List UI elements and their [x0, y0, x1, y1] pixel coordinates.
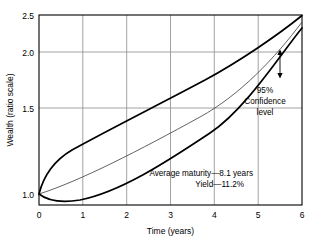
x-tick-label: 6: [300, 210, 305, 220]
wealth-confidence-chart: 2.5 2.0 1.5 1.0 0 1 2 3 4 5 6 Time (year…: [0, 0, 313, 247]
y-tick-label: 2.5: [22, 11, 34, 21]
x-tick-label: 0: [37, 210, 42, 220]
average-maturity-note: Average maturity—8.1 years: [149, 169, 253, 178]
x-tick-label: 5: [256, 210, 261, 220]
chart-figure: 2.5 2.0 1.5 1.0 0 1 2 3 4 5 6 Time (year…: [0, 0, 313, 247]
y-tick-label: 2.0: [22, 48, 34, 58]
x-tick-label: 4: [212, 210, 217, 220]
y-tick-label: 1.5: [22, 104, 34, 114]
chart-background: [0, 0, 313, 247]
confidence-word-label: Confidence: [244, 97, 286, 106]
x-axis-title: Time (years): [147, 226, 195, 236]
y-tick-label: 1.0: [22, 190, 34, 200]
x-tick-label: 1: [80, 210, 85, 220]
y-axis-title: Wealth (ratio scale): [5, 73, 15, 146]
x-tick-label: 2: [124, 210, 129, 220]
confidence-percent-label: 95%: [257, 86, 273, 95]
yield-note: Yield—11.2%: [195, 180, 244, 189]
x-tick-label: 3: [168, 210, 173, 220]
confidence-level-label: level: [257, 108, 274, 117]
